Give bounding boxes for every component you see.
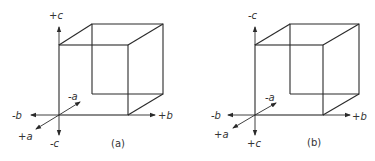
crystal-axes-figure: +c -c -b +b +a -a (a) -c +c -b +b +a -a … bbox=[0, 0, 375, 161]
axis-label-right: +b bbox=[158, 110, 173, 121]
front-axis-arrow-icon bbox=[233, 115, 255, 128]
axes-b bbox=[228, 27, 350, 135]
axis-label-left: -b bbox=[211, 110, 221, 121]
panel-caption-b: (b) bbox=[307, 137, 321, 148]
panel-a: +c -c -b +b +a -a (a) bbox=[12, 10, 173, 149]
axis-label-down: +c bbox=[247, 138, 261, 149]
axis-label-up: -c bbox=[248, 10, 258, 21]
panel-caption-a: (a) bbox=[111, 138, 125, 149]
axes-a bbox=[31, 27, 155, 135]
axis-label-front: +a bbox=[18, 131, 33, 142]
back-axis-arrow-icon bbox=[255, 103, 276, 115]
axis-label-down: -c bbox=[50, 138, 60, 149]
axis-label-up: +c bbox=[49, 10, 63, 21]
axis-label-right: +b bbox=[352, 111, 367, 122]
axis-label-front: +a bbox=[214, 129, 229, 140]
axis-label-back: -a bbox=[68, 91, 78, 102]
axis-label-back: -a bbox=[265, 92, 275, 103]
panel-b: -c +c -b +b +a -a (b) bbox=[211, 10, 367, 149]
back-axis-arrow-icon bbox=[59, 102, 80, 115]
front-axis-arrow-icon bbox=[36, 115, 59, 129]
axis-label-left: -b bbox=[12, 110, 22, 121]
